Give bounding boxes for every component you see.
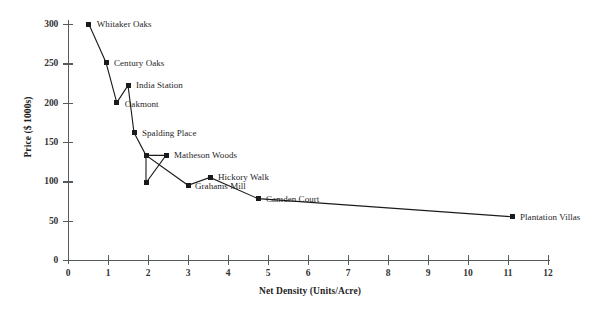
x-tick-label: 1 xyxy=(96,268,120,278)
scatter-line-chart: 050100150200250300 0123456789101112 Pric… xyxy=(0,0,610,317)
x-tick-label: 11 xyxy=(496,268,520,278)
x-tick-label: 10 xyxy=(456,268,480,278)
data-point-label: India Station xyxy=(136,80,183,90)
x-tick-label: 3 xyxy=(176,268,200,278)
x-axis-title: Net Density (Units/Acre) xyxy=(180,286,440,296)
x-tick xyxy=(148,255,149,265)
x-tick-label: 7 xyxy=(336,268,360,278)
y-axis-title: Price ($ 1000s) xyxy=(23,52,33,202)
y-tick xyxy=(63,221,73,222)
x-tick xyxy=(308,255,309,265)
x-tick xyxy=(268,255,269,265)
x-tick-label: 4 xyxy=(216,268,240,278)
data-point-label: Matheson Woods xyxy=(174,150,237,160)
data-point-label: Hickory Walk xyxy=(218,172,269,182)
x-tick xyxy=(508,255,509,265)
x-tick xyxy=(348,255,349,265)
y-tick-label: 0 xyxy=(24,255,58,265)
y-tick xyxy=(63,260,73,261)
data-point-marker xyxy=(104,60,109,65)
data-point-marker xyxy=(208,175,213,180)
y-tick xyxy=(63,63,73,64)
x-tick xyxy=(428,255,429,265)
data-point-marker xyxy=(126,83,131,88)
data-point-marker xyxy=(86,22,91,27)
x-tick xyxy=(228,255,229,265)
x-tick xyxy=(188,255,189,265)
data-point-label: Plantation Villas xyxy=(520,212,580,222)
y-tick xyxy=(63,142,73,143)
data-point-label: Grahams Mill xyxy=(195,181,246,191)
x-tick xyxy=(548,255,549,265)
x-tick xyxy=(468,255,469,265)
data-point-label: Century Oaks xyxy=(114,58,164,68)
data-point-marker xyxy=(164,153,169,158)
data-point-marker xyxy=(510,214,515,219)
x-tick xyxy=(108,255,109,265)
data-point-marker xyxy=(256,196,261,201)
x-tick-label: 2 xyxy=(136,268,160,278)
data-point-marker xyxy=(186,183,191,188)
data-point-label: Spalding Place xyxy=(142,128,196,138)
data-point-label: Whitaker Oaks xyxy=(97,19,152,29)
data-point-marker xyxy=(144,180,149,185)
x-tick xyxy=(388,255,389,265)
y-tick xyxy=(63,24,73,25)
data-point-label: Camden Court xyxy=(266,194,319,204)
y-tick xyxy=(63,181,73,182)
x-tick-label: 8 xyxy=(376,268,400,278)
data-point-marker xyxy=(114,100,119,105)
x-tick-label: 9 xyxy=(416,268,440,278)
x-tick-label: 0 xyxy=(56,268,80,278)
data-point-marker xyxy=(144,153,149,158)
y-tick xyxy=(63,103,73,104)
x-tick-label: 12 xyxy=(536,268,560,278)
data-point-label: Oakmont xyxy=(125,99,159,109)
x-tick-label: 5 xyxy=(256,268,280,278)
y-tick-label: 300 xyxy=(24,19,58,29)
data-point-marker xyxy=(132,130,137,135)
y-tick-label: 50 xyxy=(24,216,58,226)
x-tick-label: 6 xyxy=(296,268,320,278)
